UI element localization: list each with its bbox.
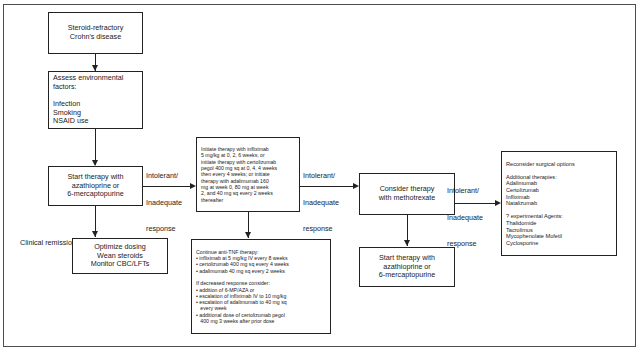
node-line: Mycophenolate Mofetil	[506, 233, 562, 240]
node-consider-therapy-methotrexate[interactable]: Consider therapy with methotrexate	[359, 173, 455, 215]
node-line: Reconsider surgical options	[506, 161, 575, 168]
node-line: Thalidomide	[506, 220, 536, 227]
edge-label-line: Inadequate	[303, 199, 355, 208]
node-line: factors:	[53, 83, 77, 92]
node-line: Crohn's disease	[49, 33, 142, 42]
arrowhead-down	[245, 232, 251, 238]
node-line: Cyclosporine	[506, 240, 538, 247]
node-line: Tacrolimus	[506, 227, 533, 234]
node-assess-environmental-factors[interactable]: Assess environmental factors: Infection …	[48, 71, 143, 129]
node-reconsider-surgical-options[interactable]: Reconsider surgical options Additional t…	[501, 151, 617, 256]
node-line: Monitor CBC/LFTs	[73, 260, 167, 269]
node-line: with methotrexate	[360, 194, 454, 203]
node-line: NSAID use	[53, 117, 89, 126]
node-line: Infliximab	[506, 194, 530, 201]
edge-label-line: response	[303, 225, 355, 234]
node-line: Certolizumab	[506, 187, 539, 194]
node-line: • adalimumab 40 mg sq every 2 weeks	[196, 268, 285, 274]
node-start-therapy-azathioprine[interactable]: Start therapy with azathioprine or 6-mer…	[48, 166, 143, 206]
node-line: Natalizumab	[506, 200, 537, 207]
node-start-therapy-azathioprine-secondary[interactable]: Start therapy with azathioprine or 6-mer…	[359, 247, 455, 287]
node-steroid-refractory-crohns-disease[interactable]: Steroid-refractory Crohn's disease	[48, 12, 143, 54]
edge-label-line: Inadequate	[447, 214, 499, 223]
node-line: thereafter	[201, 197, 223, 203]
edge-label-line: Intolerant/	[303, 172, 355, 181]
node-line: 6-mercaptopurine	[49, 190, 142, 199]
node-line-spacer	[506, 207, 508, 214]
edge-label-line: Inadequate	[146, 199, 196, 208]
edge-label-line: response	[146, 225, 196, 234]
node-continue-anti-tnf-therapy[interactable]: Continue anti-TNF therapy: • infliximab …	[191, 239, 331, 334]
edge-label-line: response	[447, 240, 499, 249]
edge-label-line: Intolerant/	[146, 172, 196, 181]
edge-label-intolerant-1: Intolerant/ Inadequate response	[146, 155, 196, 251]
node-initiate-anti-tnf-therapy[interactable]: Initiate therapy with infliximab 5 mg/kg…	[196, 137, 300, 212]
node-line: 6-mercaptopurine	[360, 271, 454, 280]
node-line-spacer	[506, 167, 508, 174]
node-line: ? experimental Agents:	[506, 213, 563, 220]
flowchart-page: Steroid-refractory Crohn's disease Asses…	[0, 0, 641, 353]
arrowhead-down	[404, 240, 410, 246]
node-line: Additional therapies:	[506, 174, 557, 181]
edge-label-line: Intolerant/	[447, 187, 499, 196]
node-line: 400 mg 3 weeks after prior dose	[196, 318, 274, 324]
node-line: Adalimumab	[506, 180, 537, 187]
edge-label-intolerant-2: Intolerant/ Inadequate response	[303, 155, 355, 251]
edge-label-intolerant-3: Intolerant/ Inadequate response	[447, 170, 499, 266]
